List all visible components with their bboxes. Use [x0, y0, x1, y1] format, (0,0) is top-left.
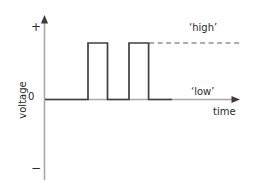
y-axis-zero-tick-label: 0	[28, 92, 34, 102]
voltage-waveform-figure: + 0 − voltage ‘high’ ‘low’ time	[0, 0, 256, 194]
y-axis-negative-tick-label: −	[31, 162, 41, 174]
x-axis-title: time	[213, 107, 236, 117]
low-level-annotation: ‘low’	[191, 87, 214, 97]
voltage-signal-trace	[45, 43, 172, 100]
y-axis-positive-tick-label: +	[31, 21, 41, 33]
high-level-annotation: ‘high’	[189, 23, 217, 33]
y-axis	[41, 15, 48, 180]
x-axis-arrowhead	[232, 96, 241, 103]
y-axis-title: voltage	[18, 69, 28, 131]
y-axis-arrowhead	[41, 15, 48, 24]
